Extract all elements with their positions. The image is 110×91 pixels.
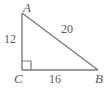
side-length-hypotenuse: 20 — [61, 23, 73, 35]
right-triangle-figure: A B C 12 16 20 — [0, 0, 110, 91]
side-length-vertical-leg: 12 — [4, 33, 16, 45]
vertex-label-c: C — [14, 72, 23, 85]
triangle-side-hypotenuse — [22, 13, 98, 70]
right-angle-marker-icon — [22, 61, 31, 70]
side-length-horizontal-leg: 16 — [49, 73, 61, 85]
vertex-label-b: B — [95, 72, 103, 85]
vertex-label-a: A — [23, 1, 31, 14]
